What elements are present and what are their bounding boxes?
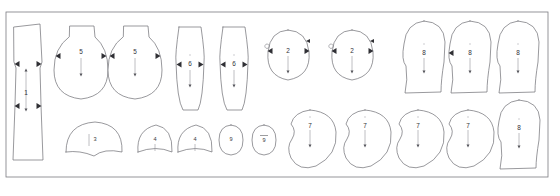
- piece-label-p12: 4: [153, 136, 156, 142]
- piece-label-p8: 8: [422, 49, 426, 56]
- piece-label-p6: 2: [286, 47, 290, 54]
- pattern-piece-8-p20[interactable]: 8: [498, 100, 540, 169]
- piece-label-p1: 1: [24, 89, 28, 96]
- piece-label-p3: 5: [133, 48, 137, 55]
- piece-label-p15: 9: [262, 137, 265, 143]
- piece-outline-p4[interactable]: [176, 27, 204, 110]
- piece-outline-p5[interactable]: [220, 27, 248, 110]
- piece-label-p4: 6: [188, 60, 192, 67]
- piece-label-p19: 7: [466, 122, 470, 129]
- pattern-piece-4-p13[interactable]: 4: [178, 125, 212, 152]
- piece-label-p10: 8: [516, 49, 520, 56]
- pattern-piece-8-p8[interactable]: 8: [403, 21, 445, 93]
- piece-label-p14: 9: [229, 136, 232, 142]
- pattern-piece-3-p11[interactable]: 3: [66, 122, 122, 156]
- pattern-nesting-drawing: 15566228883449977778: [0, 0, 560, 196]
- pattern-piece-7-p18[interactable]: 7: [397, 110, 444, 168]
- piece-label-p7: 2: [350, 47, 354, 54]
- pattern-piece-6-p5[interactable]: 6: [220, 27, 248, 110]
- piece-outline-p8[interactable]: [403, 21, 445, 93]
- piece-outline-p19[interactable]: [447, 110, 494, 168]
- pattern-piece-5-p2[interactable]: 5: [54, 26, 108, 99]
- pattern-piece-1-p1[interactable]: 1: [13, 24, 43, 160]
- piece-label-p16: 7: [308, 122, 312, 129]
- pattern-piece-8-p9[interactable]: 8: [449, 21, 492, 93]
- pattern-piece-8-p10[interactable]: 8: [497, 21, 539, 93]
- piece-outline-p18[interactable]: [397, 110, 444, 168]
- pattern-pieces-group: 15566228883449977778: [13, 21, 540, 169]
- piece-label-p9: 8: [468, 49, 472, 56]
- piece-outline-p1[interactable]: [13, 24, 43, 160]
- piece-outline-p16[interactable]: [289, 110, 336, 168]
- piece-label-p11: 3: [93, 136, 96, 142]
- piece-label-p2: 5: [79, 48, 83, 55]
- piece-label-p17: 7: [363, 122, 367, 129]
- pattern-piece-7-p16[interactable]: 7: [289, 110, 336, 168]
- piece-label-p13: 4: [193, 136, 196, 142]
- piece-label-p20: 8: [517, 124, 521, 131]
- pattern-piece-9-p14[interactable]: 9: [219, 125, 243, 155]
- pattern-piece-4-p12[interactable]: 4: [138, 125, 172, 152]
- piece-outline-p17[interactable]: [344, 110, 391, 168]
- pattern-piece-9-p15[interactable]: 9: [252, 125, 276, 155]
- pattern-piece-5-p3[interactable]: 5: [108, 26, 162, 99]
- piece-label-p18: 7: [416, 122, 420, 129]
- pattern-piece-2-p7[interactable]: 2: [329, 30, 374, 80]
- piece-outline-p10[interactable]: [497, 21, 539, 93]
- piece-outline-p9[interactable]: [449, 21, 491, 93]
- pattern-piece-6-p4[interactable]: 6: [176, 27, 204, 110]
- piece-label-p5: 6: [232, 60, 236, 67]
- pattern-layout-canvas: 15566228883449977778: [0, 0, 560, 196]
- pattern-piece-7-p19[interactable]: 7: [447, 110, 494, 168]
- pattern-piece-7-p17[interactable]: 7: [344, 110, 391, 168]
- pattern-piece-2-p6[interactable]: 2: [265, 30, 310, 80]
